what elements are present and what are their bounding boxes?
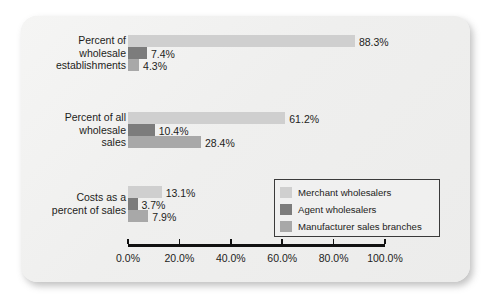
bar-value-label: 61.2% xyxy=(289,113,319,125)
x-axis-tick xyxy=(281,239,283,244)
bar-0-2 xyxy=(128,59,139,71)
bar-value-label: 7.4% xyxy=(151,48,175,60)
bar-value-label: 4.3% xyxy=(143,60,167,72)
legend-item: Merchant wholesalers xyxy=(280,184,391,200)
legend-swatch-icon xyxy=(280,204,292,215)
x-axis-tick-label: 80.0% xyxy=(319,252,349,264)
bar-0-1 xyxy=(128,47,147,59)
bar-value-label: 88.3% xyxy=(359,36,389,48)
bar-1-1 xyxy=(128,124,155,136)
bar-0-0 xyxy=(128,35,355,47)
bar-2-2 xyxy=(128,210,148,222)
x-axis-tick-label: 20.0% xyxy=(165,252,195,264)
legend-swatch-icon xyxy=(280,221,292,232)
category-label-line: establishments xyxy=(30,59,126,72)
x-axis-tick xyxy=(230,239,232,244)
category-label-line: Costs as a xyxy=(30,191,126,204)
legend-item: Agent wholesalers xyxy=(280,201,376,217)
legend-item: Manufacturer sales branches xyxy=(280,218,422,234)
bar-value-label: 28.4% xyxy=(205,137,235,149)
x-axis-tick xyxy=(333,239,335,244)
legend-item-label: Manufacturer sales branches xyxy=(298,221,422,232)
x-axis-tick-label: 0.0% xyxy=(116,252,140,264)
category-label-line: sales xyxy=(30,136,126,149)
bar-value-label: 7.9% xyxy=(152,211,176,223)
legend-item-label: Merchant wholesalers xyxy=(298,187,391,198)
category-label: Percent of allwholesalesales xyxy=(30,111,126,149)
x-axis-tick-label: 60.0% xyxy=(267,252,297,264)
chart-legend: Merchant wholesalersAgent wholesalersMan… xyxy=(274,179,440,237)
x-axis-tick-label: 100.0% xyxy=(367,252,403,264)
category-label-line: wholesale xyxy=(30,47,126,60)
category-label-line: Percent of xyxy=(30,34,126,47)
legend-swatch-icon xyxy=(280,187,292,198)
bar-chart-plot-area: Percent ofwholesaleestablishments88.3%7.… xyxy=(21,16,470,282)
chart-card: Percent ofwholesaleestablishments88.3%7.… xyxy=(21,16,470,282)
bar-2-0 xyxy=(128,186,162,198)
category-label: Percent ofwholesaleestablishments xyxy=(30,34,126,72)
category-label-line: Percent of all xyxy=(30,111,126,124)
bar-value-label: 13.1% xyxy=(166,187,196,199)
x-axis-tick xyxy=(127,239,129,244)
x-axis-tick-label: 40.0% xyxy=(216,252,246,264)
bar-1-2 xyxy=(128,136,201,148)
x-axis-tick xyxy=(384,239,386,244)
category-label-line: percent of sales xyxy=(30,204,126,217)
x-axis-line xyxy=(128,244,385,247)
bar-2-1 xyxy=(128,198,138,210)
category-label-line: wholesale xyxy=(30,124,126,137)
bar-1-0 xyxy=(128,112,285,124)
x-axis-tick xyxy=(179,239,181,244)
legend-item-label: Agent wholesalers xyxy=(298,204,376,215)
category-label: Costs as apercent of sales xyxy=(30,191,126,216)
screenshot-root: Percent ofwholesaleestablishments88.3%7.… xyxy=(0,0,497,297)
